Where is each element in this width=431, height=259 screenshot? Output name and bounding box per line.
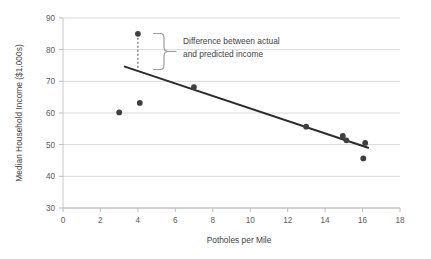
x-axis-title: Potholes per Mile: [207, 235, 272, 245]
x-tick-label: 12: [283, 216, 293, 225]
y-tick-label: 50: [46, 141, 56, 150]
data-point: [362, 140, 368, 146]
data-point: [360, 156, 366, 162]
y-tick-label: 90: [46, 14, 56, 23]
y-tick-label: 80: [46, 46, 56, 55]
data-point: [344, 137, 350, 143]
data-point: [303, 124, 309, 130]
y-tick-label: 30: [46, 204, 56, 213]
x-tick-label: 0: [61, 216, 66, 225]
annotation-line-1: Difference between actual: [183, 36, 280, 46]
x-tick-label: 8: [211, 216, 216, 225]
chart-canvas: 90 80 70 60 50 40 30 0 2 4 6 8: [0, 0, 431, 259]
data-point: [135, 31, 141, 37]
x-tick-label: 10: [246, 216, 256, 225]
x-tick-label: 14: [321, 216, 331, 225]
x-tick-label: 18: [395, 216, 405, 225]
data-point: [116, 110, 122, 116]
scatter-chart: 90 80 70 60 50 40 30 0 2 4 6 8: [0, 0, 431, 259]
data-point: [191, 84, 197, 90]
y-tick-label: 60: [46, 109, 56, 118]
x-tick-label: 6: [173, 216, 178, 225]
x-tick-label: 4: [136, 216, 141, 225]
y-axis-title: Median Household Income ($1,000s): [14, 44, 24, 182]
x-tick-label: 16: [358, 216, 368, 225]
data-point: [137, 100, 143, 106]
y-tick-label: 70: [46, 77, 56, 86]
y-tick-label: 40: [46, 172, 56, 181]
x-tick-label: 2: [98, 216, 103, 225]
annotation-line-2: and predicted income: [183, 49, 263, 59]
